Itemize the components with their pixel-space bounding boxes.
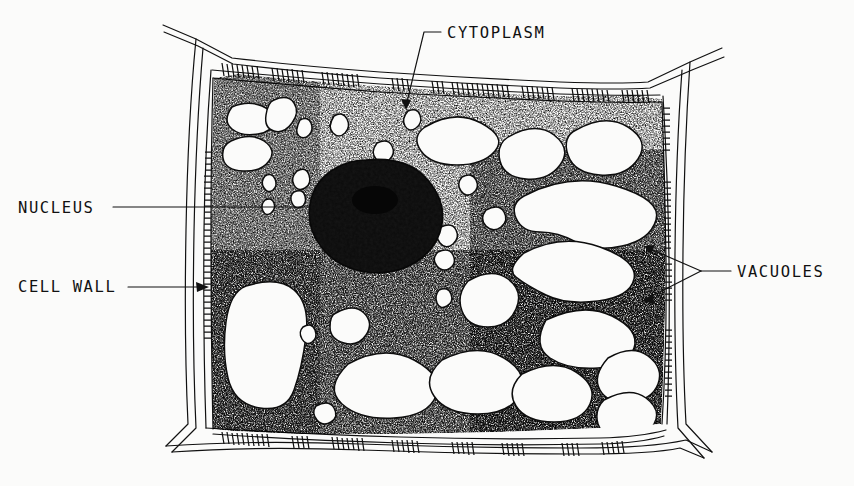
cell-wall-inner2-line-bottom — [213, 434, 664, 445]
vacuole — [483, 207, 506, 230]
vacuole — [434, 250, 454, 270]
cell-wall-mid-line-left — [172, 48, 203, 452]
vacuole — [224, 282, 306, 409]
vacuole — [291, 191, 306, 208]
cell-wall-outer-line-left — [166, 39, 196, 446]
vacuole — [330, 308, 370, 344]
plant-cell-diagram: CYTOPLASM NUCLEUS CELL WALL VACUOLES — [0, 0, 854, 486]
vacuole — [566, 121, 642, 176]
label-cell-wall[interactable]: CELL WALL — [18, 278, 209, 296]
cell-wall-mid-line-right — [675, 70, 704, 458]
vacuole — [436, 289, 452, 308]
vacuole — [459, 175, 478, 195]
vacuole — [293, 169, 310, 189]
vacuole — [460, 273, 519, 327]
vacuole — [512, 365, 592, 422]
cell-wall-inner-line-left — [204, 70, 211, 428]
vacuole — [404, 110, 421, 130]
cell-wall-mid-line-bottom — [172, 448, 704, 458]
vacuoles-label: VACUOLES — [737, 263, 824, 281]
vacuole — [597, 392, 657, 438]
cell-wall-outer-line-right — [683, 62, 712, 452]
nucleolus — [352, 186, 398, 214]
cell-wall-outer-line-top — [163, 25, 722, 83]
plant-cell-figure: CYTOPLASM NUCLEUS CELL WALL VACUOLES — [0, 0, 854, 486]
vacuole — [223, 137, 272, 172]
cell-wall-label: CELL WALL — [18, 278, 116, 296]
cytoplasm-label: CYTOPLASM — [447, 24, 545, 42]
vacuole — [300, 325, 316, 343]
vacuole — [330, 114, 348, 136]
vacuole — [262, 175, 276, 192]
vacuole — [297, 119, 312, 138]
nucleus-label: NUCLEUS — [18, 199, 95, 217]
vacuole — [314, 403, 336, 424]
